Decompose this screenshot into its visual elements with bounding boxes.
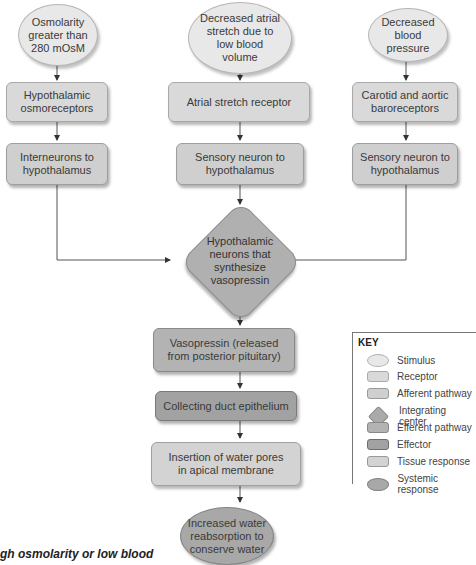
afferent-label: Sensory neuron to hypothalamus (358, 151, 452, 177)
tissue-response-water-pores: Insertion of water pores in apical membr… (151, 442, 301, 486)
efferent-vasopressin: Vasopressin (released from posterior pit… (153, 328, 295, 372)
efferent-label: Vasopressin (released from posterior pit… (161, 337, 287, 363)
systemic-response-label: Increased water reabsorption to conserve… (186, 517, 268, 556)
key-item-efferent: Efferent pathway (367, 422, 472, 433)
afferent-sensory-neuron-center: Sensory neuron to hypothalamus (176, 143, 304, 185)
receptor-osmoreceptors: Hypothalamic osmoreceptors (6, 82, 108, 122)
key-item-afferent: Afferent pathway (367, 388, 472, 399)
stimulus-label: Decreased blood pressure (372, 16, 444, 55)
systemic-swatch-icon (367, 478, 389, 491)
afferent-swatch-icon (367, 388, 389, 399)
integrating-center-label: Hypothalamic neurons that synthesize vas… (205, 235, 275, 287)
effector-collecting-duct: Collecting duct epithelium (155, 391, 297, 421)
key-label: Afferent pathway (397, 388, 472, 399)
stimulus-label: Decreased atrial stretch due to low bloo… (199, 12, 281, 64)
tissue-response-label: Insertion of water pores in apical membr… (166, 451, 286, 477)
afferent-label: Sensory neuron to hypothalamus (190, 151, 290, 177)
receptor-swatch-icon (367, 371, 389, 382)
key-label: Receptor (397, 371, 438, 382)
receptor-label: Hypothalamic osmoreceptors (17, 89, 97, 115)
key-label: Stimulus (397, 355, 435, 366)
afferent-label: Interneurons to hypothalamus (17, 151, 97, 177)
key-label: Efferent pathway (397, 422, 472, 433)
stimulus-low-blood-pressure: Decreased blood pressure (368, 8, 448, 62)
legend-key: KEY Stimulus Receptor Afferent pathway I… (352, 332, 476, 484)
systemic-response-water-reabsorption: Increased water reabsorption to conserve… (180, 507, 274, 565)
afferent-interneurons: Interneurons to hypothalamus (6, 143, 108, 185)
efferent-swatch-icon (367, 422, 389, 433)
key-label: Effector (397, 439, 431, 450)
integrating-center-hypothalamic-neurons: Hypothalamic neurons that synthesize vas… (178, 206, 302, 316)
tissue-swatch-icon (367, 456, 389, 467)
key-item-stimulus: Stimulus (367, 354, 435, 367)
receptor-label: Carotid and aortic baroreceptors (360, 89, 450, 115)
stimulus-swatch-icon (367, 354, 389, 367)
figure-caption: gh osmolarity or low blood (0, 547, 153, 561)
receptor-atrial-stretch: Atrial stretch receptor (168, 82, 310, 122)
key-item-effector: Effector (367, 439, 431, 450)
receptor-label: Atrial stretch receptor (187, 96, 292, 109)
key-title: KEY (358, 337, 379, 348)
effector-label: Collecting duct epithelium (163, 400, 288, 413)
key-item-systemic: Systemic response (367, 473, 476, 495)
key-item-receptor: Receptor (367, 371, 438, 382)
key-label: Tissue response (397, 456, 470, 467)
stimulus-atrial-stretch: Decreased atrial stretch due to low bloo… (188, 2, 292, 74)
stimulus-label: Osmolarity greater than 280 mOsM (27, 16, 89, 55)
receptor-baroreceptors: Carotid and aortic baroreceptors (352, 82, 458, 122)
key-label: Systemic response (397, 473, 476, 495)
afferent-sensory-neuron-right: Sensory neuron to hypothalamus (352, 143, 458, 185)
key-item-tissue: Tissue response (367, 456, 470, 467)
effector-swatch-icon (367, 439, 389, 450)
stimulus-high-osmolarity: Osmolarity greater than 280 mOsM (18, 4, 98, 66)
